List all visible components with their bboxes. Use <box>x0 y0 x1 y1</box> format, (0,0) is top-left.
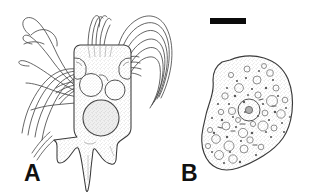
nucleolus <box>245 106 252 113</box>
center-tentacle-tuft <box>88 16 111 46</box>
figure-root: A B <box>0 0 317 196</box>
upper-left-vacuole <box>80 74 103 97</box>
panel-label-a: A <box>24 162 41 185</box>
panel-a-drawing <box>19 16 172 192</box>
panel-b-drawing <box>202 56 293 170</box>
upper-right-vacuole <box>105 80 125 100</box>
figure-drawing-canvas <box>0 0 317 196</box>
scale-bar <box>210 18 246 24</box>
panel-label-b: B <box>181 162 198 185</box>
